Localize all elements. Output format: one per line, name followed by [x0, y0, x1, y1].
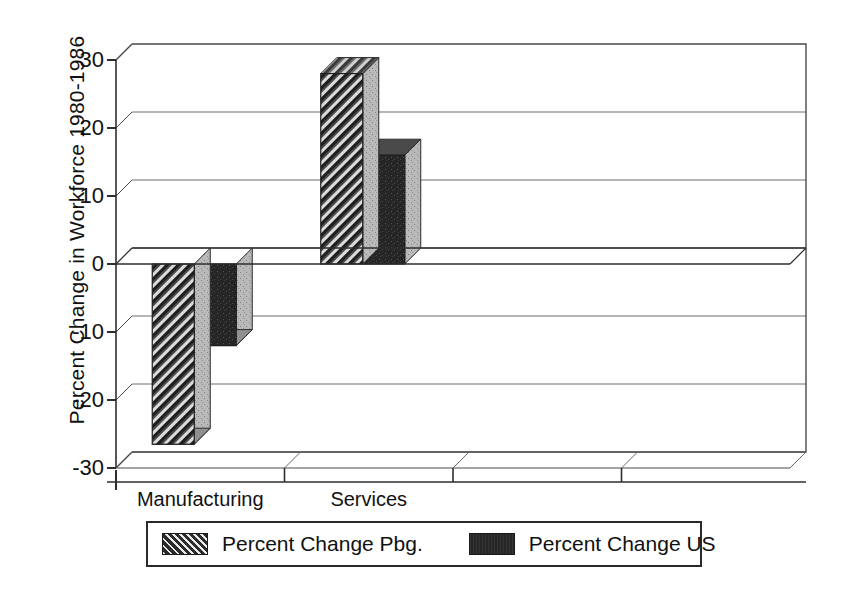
x-axis	[107, 452, 806, 490]
zero-baseline	[116, 248, 806, 264]
hatch-swatch-icon	[162, 533, 208, 555]
legend-entry-percent-change-us: Percent Change US	[469, 523, 716, 565]
legend-label-1: Percent Change Pbg.	[222, 532, 423, 556]
solid-swatch-icon	[469, 533, 515, 555]
chart-legend: Percent Change Pbg. Percent Change US	[146, 521, 702, 567]
bar-services-series-1	[321, 58, 379, 264]
axis-frame	[107, 44, 806, 468]
bar-manufacturing-series-1	[152, 248, 210, 444]
legend-entry-percent-change-pbg: Percent Change Pbg.	[162, 523, 423, 565]
legend-label-2: Percent Change US	[529, 532, 716, 556]
bar-series-group	[152, 58, 421, 445]
plot-area	[0, 0, 844, 601]
chart-container: Percent Change in Workforce 1980-1986 30…	[0, 0, 844, 601]
